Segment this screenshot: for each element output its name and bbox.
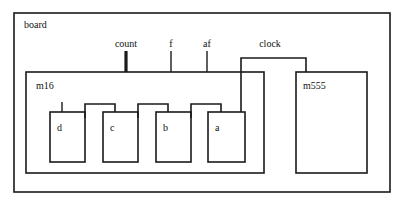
flipflop-rect-c <box>103 112 138 162</box>
flipflop-label-a: a <box>215 122 220 133</box>
block-diagram-canvas: board m16 m555 d c b a count f af clock <box>0 0 408 207</box>
port-label-count: count <box>115 38 137 49</box>
module-label-m555: m555 <box>303 80 326 91</box>
port-label-af: af <box>203 38 211 49</box>
flipflop-label-b: b <box>163 122 168 133</box>
board-label: board <box>24 19 47 30</box>
flipflop-rect-d <box>50 112 85 162</box>
flipflop-label-c: c <box>110 122 115 133</box>
flipflop-label-d: d <box>57 122 62 133</box>
diagram-svg: board m16 m555 d c b a count f af clock <box>0 0 408 207</box>
module-label-m16: m16 <box>36 80 54 91</box>
flipflop-rect-a <box>208 112 245 162</box>
flipflop-rect-b <box>156 112 191 162</box>
port-label-clock: clock <box>259 38 281 49</box>
